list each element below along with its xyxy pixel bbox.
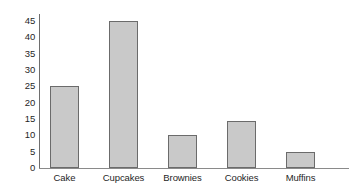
y-tick-label: 45 <box>13 16 35 26</box>
y-tick-label: 40 <box>13 32 35 42</box>
y-tick-label: 35 <box>13 49 35 59</box>
bar-brownies <box>168 135 197 168</box>
y-tick-label: 25 <box>13 81 35 91</box>
bar-cake <box>50 86 79 168</box>
bar-muffins <box>286 152 315 168</box>
y-axis-tick-labels: 051015202530354045 <box>11 0 35 196</box>
y-tick-label: 15 <box>13 114 35 124</box>
y-tick-label: 30 <box>13 65 35 75</box>
bar-cupcakes <box>109 21 138 168</box>
bar-chart-figure: 051015202530354045 CakeCupcakesBrowniesC… <box>0 0 351 196</box>
x-axis-line <box>39 168 349 169</box>
y-tick-label: 20 <box>13 98 35 108</box>
y-tick-label: 10 <box>13 130 35 140</box>
bar-cookies <box>227 121 256 168</box>
y-tick-label: 5 <box>13 147 35 157</box>
x-tick-label-muffins: Muffins <box>266 172 336 183</box>
y-axis-line <box>39 14 40 169</box>
